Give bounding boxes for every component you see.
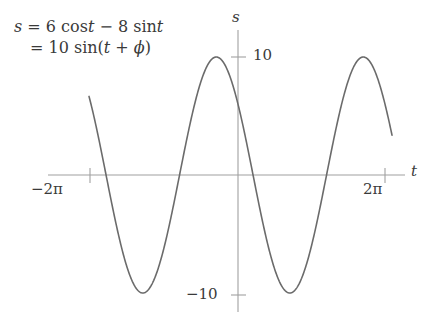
plot-area <box>0 0 443 330</box>
tick-label-positive-10: 10 <box>253 46 272 64</box>
s-axis-label: s <box>232 8 240 26</box>
tick-label-negative-10: −10 <box>186 285 218 303</box>
tick-label-negative-2pi: −2π <box>31 180 63 198</box>
math-figure: s = 6 cost − 8 sint = 10 sin(t + ϕ) s t … <box>0 0 443 330</box>
t-axis-label: t <box>411 162 417 180</box>
tick-label-positive-2pi: 2π <box>363 180 382 198</box>
